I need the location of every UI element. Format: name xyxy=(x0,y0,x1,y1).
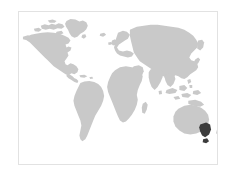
map-panel xyxy=(18,11,218,165)
world-locator-map-widget xyxy=(0,0,236,175)
world-map-svg[interactable] xyxy=(19,12,217,164)
region-sri-lanka xyxy=(159,90,162,94)
